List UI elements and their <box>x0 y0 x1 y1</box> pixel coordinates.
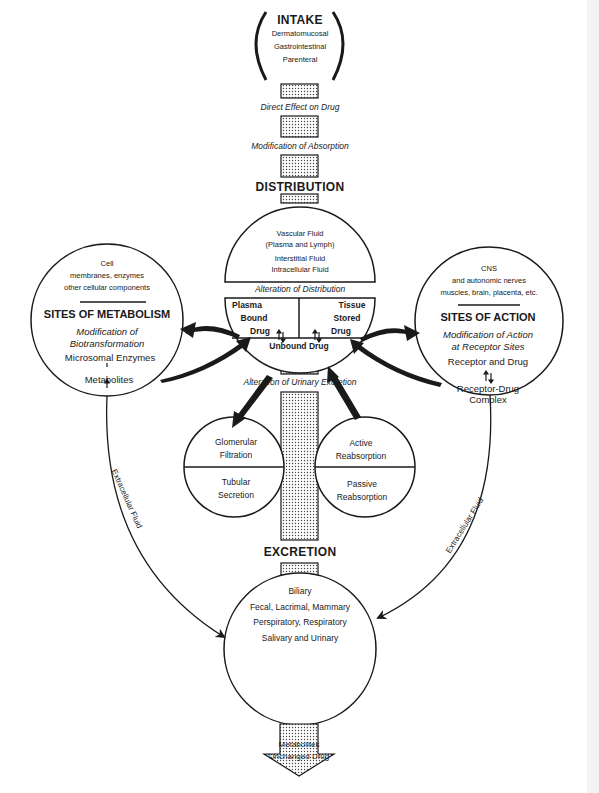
microsomal-enzymes: Microsomal Enzymes <box>65 353 155 363</box>
metabolism-component: other cellular components <box>64 284 150 292</box>
output-arrow <box>264 724 334 776</box>
glomerular-filtration: Filtration <box>220 451 253 460</box>
action-component: muscles, brain, placenta, etc. <box>440 289 537 297</box>
active-reabsorption: Active <box>349 439 372 448</box>
distribution-fluid: Intracellular Fluid <box>271 266 328 274</box>
tissue-stored-line: Tissue <box>339 301 366 310</box>
distribution-fluid: Interstitial Fluid <box>275 255 325 263</box>
plasma-bound-line: Bound <box>241 314 268 323</box>
tubular-secretion: Secretion <box>218 491 254 500</box>
passive-reabsorption: Reabsorption <box>337 493 388 502</box>
excretion-route: Biliary <box>288 587 311 596</box>
unbound-drug: Unbound Drug <box>269 342 328 351</box>
excretion-route: Salivary and Urinary <box>262 634 339 643</box>
output-label: Metabolites <box>279 741 320 749</box>
intake-route: Parenteral <box>283 56 318 64</box>
metabolism-title: SITES OF METABOLISM <box>44 309 170 320</box>
intake-title: INTAKE <box>277 14 323 26</box>
excretion-route: Fecal, Lacrimal, Mammary <box>250 603 350 612</box>
passive-reabsorption: Passive <box>347 480 377 489</box>
receptor-and-drug: Receptor and Drug <box>448 357 528 367</box>
alteration-distribution-label: Alteration of Distribution <box>255 285 345 294</box>
plasma-bound-line: Plasma <box>232 301 262 310</box>
glomerular-filtration: Glomerular <box>215 438 257 447</box>
receptor-drug-complex: Complex <box>469 395 507 405</box>
active-reabsorption: Reabsorption <box>336 452 387 461</box>
plasma-bound-line: Drug <box>250 327 270 336</box>
action-component: and autonomic nerves <box>452 277 526 285</box>
action-component: CNS <box>481 265 497 273</box>
intake-route: Gastrointestinal <box>274 43 326 51</box>
action-title: SITES OF ACTION <box>441 312 536 323</box>
metabolism-component: Cell <box>101 260 114 268</box>
tissue-stored-line: Drug <box>331 327 351 336</box>
diagram-shapes <box>0 0 599 793</box>
action-modification: at Receptor Sites <box>452 342 525 352</box>
alteration-urinary-label: Alteration of Urinary Excretion <box>244 378 357 387</box>
distribution-fluid: Vascular Fluid <box>277 230 324 238</box>
metabolism-modification: Biotransformation <box>70 339 144 349</box>
distribution-fluid: (Plasma and Lymph) <box>266 241 335 249</box>
intake-route: Dermatomucosal <box>272 30 329 38</box>
distribution-title: DISTRIBUTION <box>256 181 345 193</box>
action-modification: Modification of Action <box>443 330 533 340</box>
metabolites-label: Metabolites <box>85 375 134 385</box>
modification-absorption-label: Modification of Absorption <box>251 142 349 151</box>
excretion-title: EXCRETION <box>264 546 337 558</box>
receptor-drug-complex: Receptor-Drug <box>457 384 519 394</box>
output-label: Unchanged Drug <box>269 753 329 761</box>
tissue-stored-line: Stored <box>334 314 361 323</box>
excretion-route: Perspiratory, Respiratory <box>253 618 346 627</box>
metabolism-modification: Modification of <box>76 327 137 337</box>
tubular-secretion: Tubular <box>222 478 251 487</box>
direct-effect-label: Direct Effect on Drug <box>261 103 340 112</box>
metabolism-component: membranes, enzymes <box>70 272 144 280</box>
